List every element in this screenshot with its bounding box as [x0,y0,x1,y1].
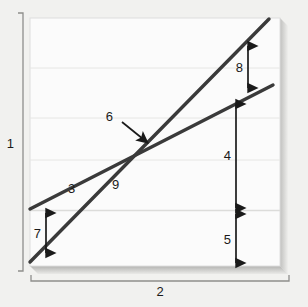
intersection-label: 6 [106,109,113,124]
series-label-flat: 3 [68,181,75,196]
measure-label-8: 8 [236,60,243,75]
measure-label-5: 5 [224,232,231,247]
series-label-steep: 9 [112,177,119,192]
line-chart-figure: 1 2 3 9 6 8 4 5 7 [0,0,308,307]
measure-label-4: 4 [224,148,231,163]
x-axis-label: 2 [156,284,163,299]
measure-label-7: 7 [34,226,41,241]
x-axis-caliper [31,275,289,281]
y-axis-label: 1 [7,136,14,151]
y-axis-caliper [18,13,23,271]
plot-background [30,18,280,266]
